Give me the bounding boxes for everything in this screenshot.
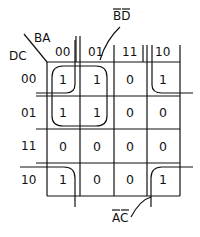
cell-r1-c0: 1	[59, 105, 67, 120]
cell-r0-c2: 0	[126, 72, 134, 87]
group-label-ac-bar: AC	[112, 197, 151, 225]
row-header-10: 10	[21, 173, 36, 187]
svg-text:BD: BD	[113, 9, 130, 23]
row-header-00: 00	[21, 72, 36, 86]
cell-r1-c1: 1	[93, 105, 101, 120]
cell-r2-c2: 0	[126, 139, 134, 154]
cell-r3-c1: 0	[93, 172, 101, 187]
row-header-01: 01	[21, 106, 36, 120]
cell-r2-c1: 0	[93, 139, 101, 154]
col-header-11: 11	[122, 45, 137, 59]
cell-r2-c0: 0	[59, 139, 67, 154]
row-header-11: 11	[21, 139, 36, 153]
col-header-00: 00	[55, 45, 70, 59]
group-loop-corner-bottom-right	[151, 167, 193, 207]
karnaugh-map-diagram: BA DC 00 01 11 10 00 01 11 10 1 1 0 1 1 …	[0, 0, 200, 237]
cell-r1-c2: 0	[126, 105, 134, 120]
cell-r3-c0: 1	[59, 172, 67, 187]
svg-text:AC: AC	[112, 211, 128, 225]
cell-r1-c3: 0	[159, 105, 167, 120]
row-variable-label: DC	[9, 49, 27, 63]
column-variable-label: BA	[34, 31, 51, 45]
cell-r0-c0: 1	[59, 72, 67, 87]
cell-r3-c3: 1	[159, 172, 167, 187]
cell-r0-c3: 1	[159, 72, 167, 87]
cell-r3-c2: 0	[126, 172, 134, 187]
col-header-10: 10	[155, 45, 170, 59]
cell-r0-c1: 1	[93, 72, 101, 87]
cell-r2-c3: 0	[159, 139, 167, 154]
